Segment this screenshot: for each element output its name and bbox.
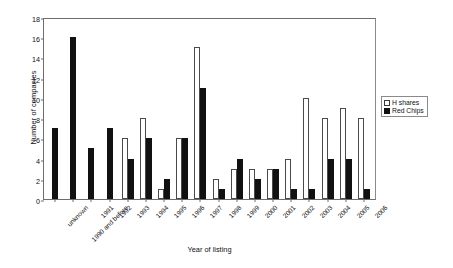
bar-red-chips <box>255 179 261 199</box>
bar-group <box>137 19 155 199</box>
bar-group <box>173 19 191 199</box>
bar-red-chips <box>52 128 58 199</box>
bar-red-chips <box>70 37 76 199</box>
x-axis-tick-label: 1994 <box>154 204 169 219</box>
bar-group <box>355 19 373 199</box>
bar-red-chips <box>200 88 206 199</box>
x-axis-tick-label: unknown <box>66 204 90 228</box>
bar-group <box>119 19 137 199</box>
x-axis-tick-label: 1999 <box>245 204 260 219</box>
bar-h-shares <box>358 118 364 199</box>
bar-red-chips <box>128 159 134 199</box>
bar-group <box>264 19 282 199</box>
bar-red-chips <box>219 189 225 199</box>
y-axis-tick-mark <box>41 160 44 161</box>
bar-group <box>46 19 64 199</box>
legend-label: Red Chips <box>392 107 424 114</box>
chart-legend: H sharesRed Chips <box>381 96 428 117</box>
bar-group <box>82 19 100 199</box>
legend-item: Red Chips <box>384 107 424 114</box>
x-axis-tick-label: 2004 <box>337 204 352 219</box>
y-axis-tick-mark <box>41 59 44 60</box>
y-axis-tick-mark <box>41 39 44 40</box>
x-axis-tick-label: 1997 <box>209 204 224 219</box>
legend-label: H shares <box>392 99 419 106</box>
bar-h-shares <box>303 98 309 199</box>
bar-red-chips <box>291 189 297 199</box>
legend-item: H shares <box>384 99 424 106</box>
y-axis-tick-mark <box>41 79 44 80</box>
bar-red-chips <box>328 159 334 199</box>
bar-group <box>155 19 173 199</box>
bar-red-chips <box>237 159 243 199</box>
y-axis-tick-mark <box>41 120 44 121</box>
x-axis-tick-label: 1995 <box>172 204 187 219</box>
x-axis-tick-label: 1992 <box>117 204 132 219</box>
x-axis-tick-label: 2001 <box>282 204 297 219</box>
bar-red-chips <box>164 179 170 199</box>
x-axis-tick-label: 2003 <box>318 204 333 219</box>
bar-group <box>246 19 264 199</box>
bar-chart-figure: Number of companies 024681012141618 unkn… <box>0 0 453 268</box>
bar-red-chips <box>273 169 279 199</box>
plot-frame: 024681012141618 <box>43 18 376 200</box>
x-axis-tick-label: 2000 <box>263 204 278 219</box>
x-axis-tick-label: 2002 <box>300 204 315 219</box>
x-axis-tick-labels: unknown1990 and before199119921993199419… <box>43 200 376 248</box>
bar-red-chips <box>107 128 113 199</box>
x-axis-tick-label: 2006 <box>373 204 388 219</box>
y-axis-tick-mark <box>41 180 44 181</box>
x-axis-tick-label: 2005 <box>355 204 370 219</box>
bar-group <box>319 19 337 199</box>
bar-red-chips <box>146 138 152 199</box>
bar-group <box>282 19 300 199</box>
plot-area <box>44 19 375 199</box>
bar-group <box>191 19 209 199</box>
bar-group <box>64 19 82 199</box>
y-axis-tick-mark <box>41 99 44 100</box>
bar-group <box>101 19 119 199</box>
bar-group <box>210 19 228 199</box>
legend-swatch-red-chips <box>384 108 390 114</box>
x-axis-tick-label: 1998 <box>227 204 242 219</box>
bar-group <box>228 19 246 199</box>
bar-red-chips <box>88 148 94 199</box>
bar-red-chips <box>346 159 352 199</box>
legend-swatch-h-shares <box>384 100 390 106</box>
bar-group <box>337 19 355 199</box>
bar-red-chips <box>364 189 370 199</box>
bar-red-chips <box>182 138 188 199</box>
x-axis-tick-label: 1996 <box>190 204 205 219</box>
y-axis-tick-mark <box>41 19 44 20</box>
x-axis-tick-label: 1993 <box>136 204 151 219</box>
bar-red-chips <box>309 189 315 199</box>
x-axis-title: Year of listing <box>43 245 376 254</box>
bar-group <box>300 19 318 199</box>
y-axis-tick-mark <box>41 140 44 141</box>
